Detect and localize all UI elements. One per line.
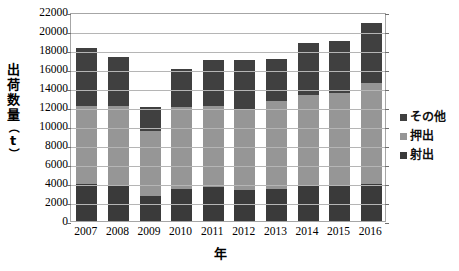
- chart-screenshot: 出 荷 数 量 （ t ） 22000200001800016000140001…: [0, 0, 459, 271]
- x-axis-tick-label: 2008: [102, 224, 134, 238]
- axis-tick-mark: [67, 90, 71, 91]
- gridline: [71, 166, 385, 167]
- legend-swatch-icon: [400, 133, 407, 140]
- gridline: [71, 90, 385, 91]
- axis-tick-mark: [67, 147, 71, 148]
- gridline: [71, 52, 385, 53]
- legend-swatch-icon: [400, 152, 407, 159]
- y-axis-tick-label: 20000: [24, 26, 68, 37]
- axis-tick-mark: [67, 128, 71, 129]
- bar-column[interactable]: [234, 60, 255, 222]
- axis-tick-mark: [385, 166, 389, 167]
- bar-column[interactable]: [266, 59, 287, 221]
- legend-label: 押出: [410, 130, 434, 143]
- y-axis-title-char: 荷: [2, 77, 24, 92]
- axis-tick-mark: [67, 52, 71, 53]
- y-axis-tick-label: 14000: [24, 83, 68, 94]
- gridline: [71, 33, 385, 34]
- y-axis-tick-label: 0: [24, 216, 68, 227]
- axis-tick-mark: [385, 33, 389, 34]
- bar-column[interactable]: [171, 69, 192, 221]
- axis-tick-mark: [67, 166, 71, 167]
- bar-segment[interactable]: [76, 106, 97, 184]
- bar-segment[interactable]: [140, 131, 161, 197]
- x-axis-tick-labels: 2007200820092010201120122013201420152016: [70, 224, 386, 240]
- y-axis-tick-labels: 2200020000180001600014000120001000080006…: [24, 0, 68, 271]
- bar-segment[interactable]: [266, 101, 287, 188]
- bar-segment[interactable]: [108, 57, 129, 106]
- gridline: [71, 147, 385, 148]
- axis-tick-mark: [67, 14, 71, 15]
- x-axis-tick-label: 2012: [228, 224, 260, 238]
- axis-tick-mark: [67, 185, 71, 186]
- bar-column[interactable]: [203, 60, 224, 221]
- y-axis-title-char: （: [8, 117, 19, 139]
- legend-item[interactable]: 射出: [400, 146, 458, 165]
- y-axis-tick-label: 16000: [24, 64, 68, 75]
- y-axis-tick-label: 2000: [24, 197, 68, 208]
- bar-segment[interactable]: [234, 60, 255, 109]
- y-axis-tick-label: 10000: [24, 121, 68, 132]
- x-axis-tick-label: 2016: [354, 224, 386, 238]
- gridline: [71, 71, 385, 72]
- bar-segment[interactable]: [266, 59, 287, 102]
- gridline: [71, 204, 385, 205]
- y-axis-tick-label: 8000: [24, 140, 68, 151]
- gridline: [71, 185, 385, 186]
- axis-tick-mark: [385, 109, 389, 110]
- axis-tick-mark: [385, 71, 389, 72]
- bar-series-group: [71, 14, 385, 221]
- x-axis-tick-label: 2010: [165, 224, 197, 238]
- axis-tick-mark: [385, 52, 389, 53]
- axis-tick-mark: [385, 147, 389, 148]
- x-axis-tick-label: 2015: [323, 224, 355, 238]
- bar-segment[interactable]: [171, 69, 192, 107]
- bar-segment[interactable]: [361, 83, 382, 184]
- x-axis-tick-label: 2011: [196, 224, 228, 238]
- axis-tick-mark: [385, 185, 389, 186]
- legend-label: その他: [410, 111, 446, 124]
- y-axis-title-char: 数: [2, 92, 24, 107]
- y-axis-tick-label: 6000: [24, 159, 68, 170]
- bar-segment[interactable]: [361, 184, 382, 221]
- y-axis-tick-label: 4000: [24, 178, 68, 189]
- axis-tick-mark: [67, 109, 71, 110]
- x-axis-tick-label: 2013: [260, 224, 292, 238]
- axis-tick-mark: [385, 14, 389, 15]
- bar-segment[interactable]: [329, 93, 350, 186]
- x-axis-tick-label: 2009: [133, 224, 165, 238]
- bar-column[interactable]: [298, 43, 319, 221]
- legend-label: 射出: [410, 149, 434, 162]
- gridline: [71, 128, 385, 129]
- y-axis-title-char: 出: [2, 62, 24, 77]
- gridline: [71, 109, 385, 110]
- bar-segment[interactable]: [203, 60, 224, 106]
- x-axis-title: 年: [206, 243, 234, 262]
- axis-tick-mark: [385, 90, 389, 91]
- bar-column[interactable]: [108, 57, 129, 221]
- bar-segment[interactable]: [234, 109, 255, 190]
- axis-tick-mark: [67, 33, 71, 34]
- bar-column[interactable]: [361, 23, 382, 221]
- bar-segment[interactable]: [76, 48, 97, 106]
- y-axis-title: 出 荷 数 量 （ t ）: [2, 62, 24, 159]
- bar-segment[interactable]: [140, 196, 161, 221]
- bar-segment[interactable]: [234, 190, 255, 221]
- x-axis-tick-label: 2014: [291, 224, 323, 238]
- plot-area: [70, 13, 386, 222]
- axis-tick-mark: [385, 128, 389, 129]
- y-axis-tick-label: 12000: [24, 102, 68, 113]
- axis-tick-mark: [67, 71, 71, 72]
- legend-item[interactable]: 押出: [400, 127, 458, 146]
- bar-column[interactable]: [76, 48, 97, 221]
- bar-segment[interactable]: [329, 41, 350, 93]
- bar-column[interactable]: [329, 41, 350, 222]
- bar-segment[interactable]: [76, 184, 97, 221]
- chart-legend: その他押出射出: [400, 108, 458, 165]
- bar-segment[interactable]: [108, 106, 129, 186]
- y-axis-tick-label: 18000: [24, 45, 68, 56]
- y-axis-title-char: ）: [8, 143, 19, 165]
- y-axis-tick-label: 22000: [24, 7, 68, 18]
- legend-item[interactable]: その他: [400, 108, 458, 127]
- x-axis-tick-label: 2007: [70, 224, 102, 238]
